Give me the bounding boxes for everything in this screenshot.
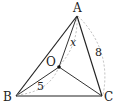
dimension-label-OB: 5 [37,80,44,93]
label-A: A [72,1,82,15]
label-B: B [3,90,12,104]
dimension-label-OA: x [70,36,77,49]
point-O-dot [57,65,61,69]
label-O: O [46,55,56,69]
triangle-diagram: A B C O x 8 5 [0,0,118,110]
label-C: C [104,90,113,104]
dimension-label-AC: 8 [95,46,102,59]
segment-OC [59,67,102,96]
